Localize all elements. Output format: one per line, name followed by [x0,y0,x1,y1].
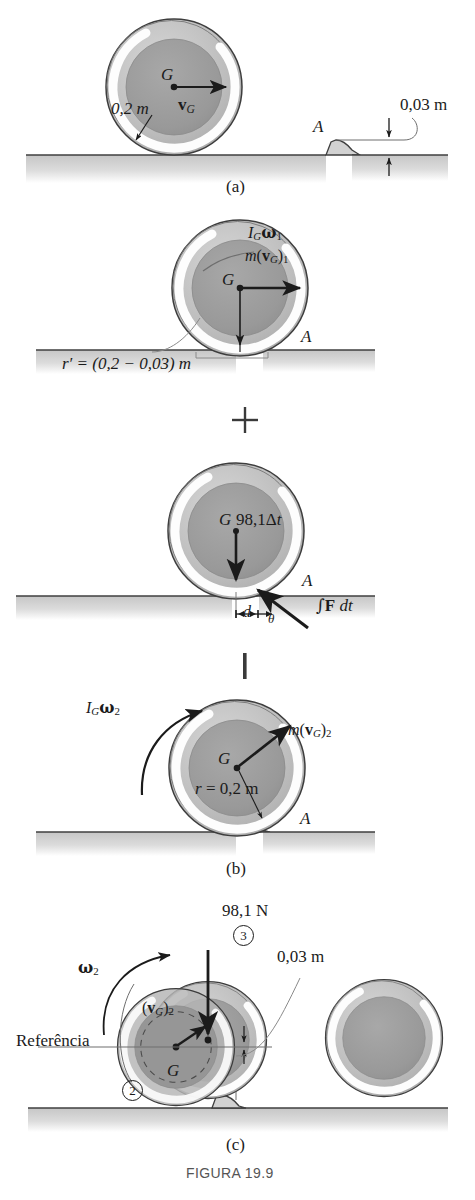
omega-symbol-m1: ω [261,223,276,242]
center-label-impulse: G [219,511,231,528]
step-label-impulse: A [302,572,312,589]
weight-impulse-value: 98,1Δ [236,510,277,529]
panel-label-c: (c) [226,1136,245,1153]
force-symbol: F [325,596,335,615]
omega-subscript-m2: 2 [114,705,119,717]
angle-label-impulse: θ [268,612,274,625]
operator-equals-group [243,653,247,679]
ground-hatch-c [28,1108,448,1132]
omega-subscript-m1: 1 [276,230,281,242]
state-3-badge: 3 [233,925,254,946]
linear-momentum-label-m2: m(vG)2 [288,722,332,739]
weight-impulse-label: 98,1Δt [236,511,281,528]
force-impulse-label: ∫F dt [316,597,353,614]
wheel-c-right [326,980,443,1097]
mass-symbol-m2: m [288,721,300,738]
v-subscript-c: G [155,1005,163,1017]
r-value-m2: = 0,2 m [206,779,259,798]
panel-a-diagram [26,19,448,183]
weight-impulse-time: t [277,510,282,529]
velocity-symbol-a: v [178,95,187,114]
v-subscript-m2: G [313,727,321,739]
ground-hatch-a [26,155,326,183]
velocity-label-a: vG [178,96,195,115]
omega-symbol-m2: ω [99,698,114,717]
ground-hatch-imp [16,596,232,620]
panel-c-diagram [28,950,448,1132]
r-symbol-m2: r [195,779,202,798]
radius-label-m2: r = 0,2 m [195,780,258,797]
state-subscript-m1: 1 [283,253,288,265]
v-symbol-m1: v [262,247,270,264]
mass-symbol-m1: m [245,247,257,264]
omega-subscript-c: 2 [93,965,98,977]
state-subscript-m2: 2 [326,727,331,739]
moment-arm-label-m1: r′ = (0,2 − 0,03) m [62,355,191,372]
panel-momentum1-diagram [36,220,375,374]
v-symbol-m2: v [305,721,313,738]
velocity-subscript-a: G [187,103,195,116]
ground-hatch-m2 [36,832,236,856]
step-height-label-c: 0,03 m [277,948,324,965]
state-subscript-c: 2 [169,1005,174,1017]
step-label-a: A [313,118,323,135]
velocity-label-c: (vG)2 [142,1000,174,1017]
step-label-m2: A [300,810,310,827]
step-label-m1: A [301,328,311,345]
angular-momentum-label-m2: IGω2 [86,700,120,717]
center-label-c: G [167,1062,179,1079]
center-label-m2: G [218,750,230,767]
datum-label-c: Referência [16,1032,90,1049]
radius-label-a: 0,2 m [111,100,149,117]
step-obstacle-a [326,140,448,181]
omega-symbol-c: ω [78,958,93,977]
distance-label-impulse: d [243,604,251,620]
weight-label-c: 98,1 N [222,902,268,919]
linear-momentum-label-m1: m(vG)1 [245,248,289,265]
state-2-badge: 2 [122,1080,143,1101]
figure-19-9: G 0,2 m vG A 0,03 m (a) IGω1 m(vG)1 G A … [0,0,475,1200]
center-label-m1: G [222,271,234,288]
center-point-c-state3 [205,1037,212,1044]
center-label-a: G [161,66,173,83]
dt-symbol: dt [340,596,353,615]
figure-caption: FIGURA 19.9 [186,1166,274,1180]
v-subscript-m1: G [270,253,278,265]
panel-label-b: (b) [226,860,246,877]
angular-momentum-label-m1: IGω1 [248,225,282,242]
integral-symbol: ∫ [316,595,325,615]
step-height-label-a: 0,03 m [400,96,447,113]
omega-label-c: ω2 [78,960,99,977]
operator-plus-group [232,407,258,433]
ig-subscript-m2: G [91,705,99,717]
panel-label-a: (a) [226,178,245,195]
ig-subscript-m1: G [253,230,261,242]
